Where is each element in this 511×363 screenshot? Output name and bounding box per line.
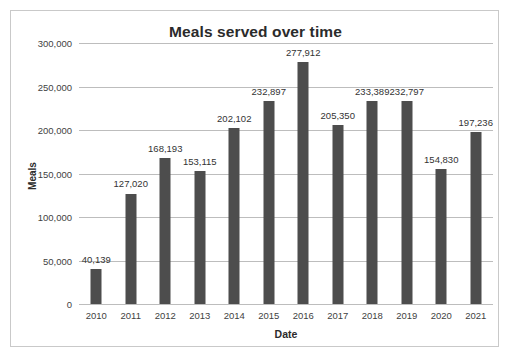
y-tick-label: 0 bbox=[67, 299, 72, 310]
y-tick-label: 100,000 bbox=[38, 212, 72, 223]
bar-group: 127,0202011 bbox=[114, 43, 149, 304]
gridline-0: 0 bbox=[79, 304, 493, 305]
bar-group: 205,3502017 bbox=[321, 43, 356, 304]
bar[interactable] bbox=[298, 62, 309, 304]
x-tick-label: 2017 bbox=[327, 310, 348, 321]
x-tick-label: 2015 bbox=[258, 310, 279, 321]
bar[interactable] bbox=[229, 128, 240, 304]
bar[interactable] bbox=[125, 194, 136, 305]
bar-group: 197,2362021 bbox=[459, 43, 494, 304]
bar-value-label: 232,797 bbox=[390, 86, 424, 97]
bar[interactable] bbox=[436, 169, 447, 304]
chart-title: Meals served over time bbox=[11, 23, 500, 41]
bar-group: 233,3892018 bbox=[355, 43, 390, 304]
bar-group: 202,1022014 bbox=[217, 43, 252, 304]
bar-value-label: 202,102 bbox=[217, 113, 251, 124]
bar-value-label: 127,020 bbox=[114, 178, 148, 189]
bar-value-label: 205,350 bbox=[321, 110, 355, 121]
plot-area: 050,000100,000150,000200,000250,000300,0… bbox=[79, 43, 493, 304]
bar-group: 168,1932012 bbox=[148, 43, 183, 304]
bar[interactable] bbox=[401, 101, 412, 304]
x-tick-label: 2016 bbox=[293, 310, 314, 321]
bar-value-label: 40,139 bbox=[82, 254, 111, 265]
bar-value-label: 153,115 bbox=[183, 156, 217, 167]
bar-value-label: 197,236 bbox=[459, 117, 493, 128]
bar-group: 277,9122016 bbox=[286, 43, 321, 304]
bar-value-label: 277,912 bbox=[286, 47, 320, 58]
bar-group: 232,7972019 bbox=[390, 43, 425, 304]
x-tick-label: 2013 bbox=[189, 310, 210, 321]
bar-value-label: 233,389 bbox=[355, 86, 389, 97]
chart-figure: Meals served over time Meals 050,000100,… bbox=[10, 10, 499, 347]
bar[interactable] bbox=[263, 101, 274, 304]
x-tick-label: 2010 bbox=[86, 310, 107, 321]
bar[interactable] bbox=[91, 269, 102, 304]
bar-group: 153,1152013 bbox=[183, 43, 218, 304]
bar-group: 232,8972015 bbox=[252, 43, 287, 304]
y-tick-label: 50,000 bbox=[43, 255, 72, 266]
x-axis-title: Date bbox=[79, 328, 493, 340]
x-tick-label: 2021 bbox=[465, 310, 486, 321]
x-tick-label: 2012 bbox=[155, 310, 176, 321]
x-tick-label: 2018 bbox=[362, 310, 383, 321]
bar[interactable] bbox=[470, 132, 481, 304]
x-tick-label: 2011 bbox=[121, 310, 141, 321]
x-tick-label: 2014 bbox=[224, 310, 245, 321]
bar-group: 154,8302020 bbox=[424, 43, 459, 304]
bar[interactable] bbox=[367, 101, 378, 304]
bar-group: 40,1392010 bbox=[79, 43, 114, 304]
y-tick-label: 200,000 bbox=[38, 125, 72, 136]
bar-value-label: 154,830 bbox=[424, 154, 458, 165]
y-tick-label: 150,000 bbox=[38, 168, 72, 179]
x-tick-label: 2020 bbox=[431, 310, 452, 321]
bar[interactable] bbox=[160, 158, 171, 304]
bar-value-label: 232,897 bbox=[252, 86, 286, 97]
y-tick-label: 250,000 bbox=[38, 81, 72, 92]
bar[interactable] bbox=[332, 125, 343, 304]
bar-value-label: 168,193 bbox=[148, 143, 182, 154]
x-tick-label: 2019 bbox=[396, 310, 417, 321]
y-tick-label: 300,000 bbox=[38, 38, 72, 49]
bar[interactable] bbox=[194, 171, 205, 304]
